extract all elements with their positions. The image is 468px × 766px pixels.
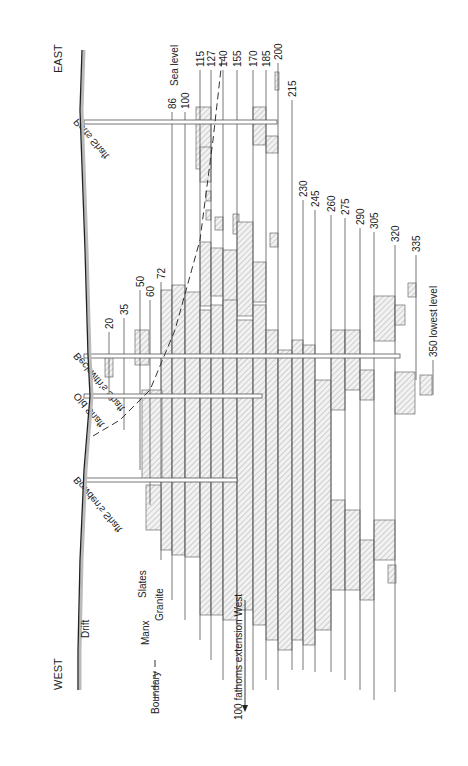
- ore-body: [253, 305, 266, 625]
- shaft-label: Bowden's Shaft: [71, 475, 124, 535]
- ore-body: [331, 330, 345, 410]
- ore-body: [395, 305, 405, 325]
- level-label: 215: [287, 80, 298, 97]
- level-label: 245: [310, 190, 321, 207]
- level-label: 170: [248, 50, 259, 67]
- mine-section-diagram: 2035506072861001151271401551701852002152…: [0, 0, 468, 766]
- ore-body: [161, 290, 172, 550]
- shaft: [84, 478, 237, 482]
- ore-body: [374, 520, 395, 560]
- ore-body: [315, 380, 331, 630]
- boundary-label: Boundary: [150, 671, 161, 714]
- shaft: [84, 354, 400, 358]
- ore-body: [360, 370, 374, 400]
- ore-body: [266, 330, 278, 640]
- ore-body: [331, 500, 345, 590]
- granite-label: Granite: [154, 588, 165, 621]
- ore-body: [292, 340, 303, 640]
- level-label: 200: [273, 43, 284, 60]
- ore-body: [345, 510, 360, 590]
- ore-body: [360, 540, 374, 600]
- ore-body: [420, 375, 432, 395]
- level-label: 86: [167, 97, 178, 109]
- level-label: 185: [261, 50, 272, 67]
- west-label: WEST: [52, 658, 64, 690]
- ore-body: [206, 210, 211, 220]
- ore-body: [206, 191, 211, 201]
- level-label: 335: [411, 235, 422, 252]
- ore-body: [211, 248, 223, 296]
- ore-body: [223, 250, 237, 304]
- ore-body: [215, 217, 223, 230]
- level-label: 35: [119, 303, 130, 315]
- ore-body: [253, 107, 266, 145]
- ore-body: [270, 233, 278, 247]
- level-label: 127: [206, 50, 217, 67]
- level-label: 305: [369, 212, 380, 229]
- level-label: 230: [298, 180, 309, 197]
- ore-body: [223, 300, 237, 620]
- level-label: 155: [232, 50, 243, 67]
- level-label: 20: [104, 317, 115, 329]
- ore-body: [135, 330, 149, 365]
- level-label: 50: [135, 275, 146, 287]
- slates-label: Slates: [137, 570, 148, 598]
- shaft: [84, 120, 277, 124]
- level-label: 275: [340, 198, 351, 215]
- ore-body: [237, 320, 253, 610]
- ore-body: [185, 292, 200, 557]
- level-label: 260: [326, 195, 337, 212]
- level-label: 320: [390, 225, 401, 242]
- ore-body: [172, 285, 185, 555]
- ore-body: [345, 330, 360, 390]
- ore-body: [303, 345, 315, 645]
- level-label: 100: [180, 92, 191, 109]
- ore-bodies: [105, 72, 432, 650]
- sea-level-label: Sea level: [169, 45, 180, 86]
- ore-body: [374, 296, 395, 341]
- ore-body: [200, 242, 211, 306]
- ore-body: [146, 485, 161, 530]
- level-label: 115: [195, 51, 206, 67]
- ore-body: [211, 305, 223, 615]
- shaft: [84, 394, 262, 398]
- east-label: EAST: [52, 44, 64, 73]
- manx-label: Manx: [140, 621, 151, 645]
- ore-body: [278, 350, 292, 650]
- ore-body: [395, 372, 415, 414]
- drift-label: Drift: [80, 619, 91, 638]
- ore-body: [237, 222, 253, 316]
- level-label: 72: [156, 267, 167, 279]
- level-label: 60: [145, 285, 156, 297]
- ore-body: [266, 136, 278, 153]
- ore-body: [142, 390, 162, 480]
- extension-west-label: 100 fathoms extension West: [233, 594, 244, 720]
- ore-body: [408, 283, 416, 297]
- level-label: 290: [355, 208, 366, 225]
- level-label: 140: [218, 50, 229, 67]
- level-label: 350 lowest level: [428, 286, 439, 357]
- ore-body: [253, 262, 266, 302]
